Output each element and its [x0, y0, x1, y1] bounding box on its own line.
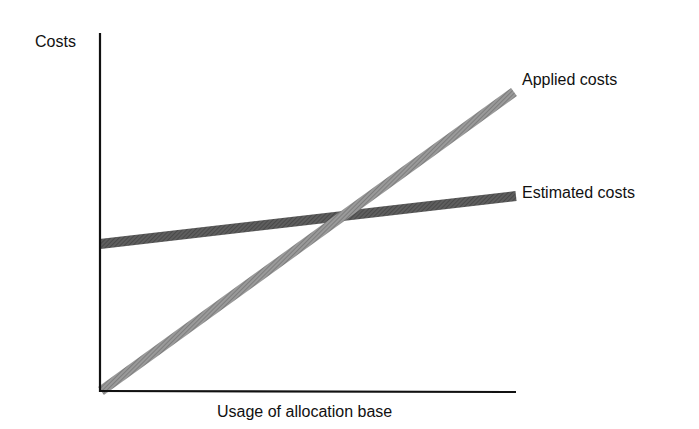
applied-costs-label: Applied costs	[522, 72, 617, 88]
cost-diagram	[0, 0, 699, 429]
x-axis	[99, 391, 516, 392]
y-axis-label: Costs	[35, 34, 76, 50]
estimated-costs-label: Estimated costs	[522, 185, 635, 201]
x-axis-label: Usage of allocation base	[217, 404, 392, 420]
